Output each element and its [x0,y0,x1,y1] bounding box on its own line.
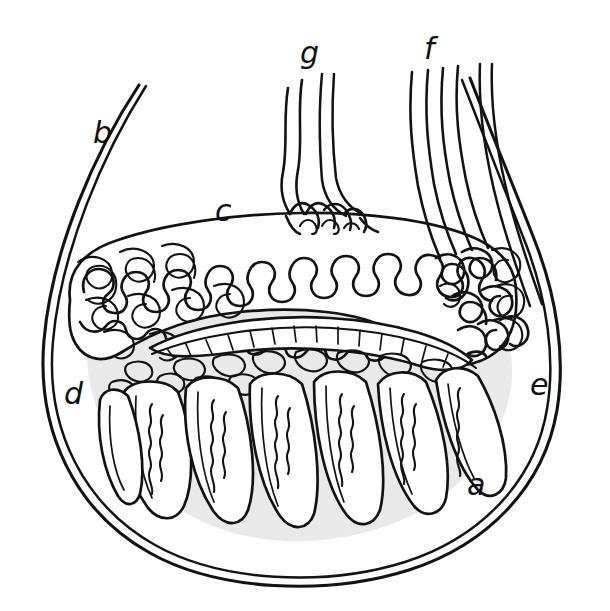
testis-lobules [99,368,506,527]
label-c: c [215,196,232,226]
label-e: e [530,370,548,400]
label-b: b [93,118,112,148]
label-f: f [424,34,435,64]
anatomy-drawing [0,0,610,611]
anatomical-figure: b g f c d e a [0,0,610,611]
label-a: a [467,470,485,500]
label-d: d [64,379,83,409]
label-g: g [300,38,319,68]
efferent-duct-fan [282,74,378,234]
